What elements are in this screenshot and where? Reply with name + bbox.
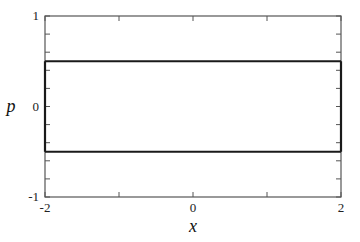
data-series [45, 61, 341, 152]
minor-ticks [45, 16, 341, 197]
x-tick-label: -2 [40, 200, 51, 215]
x-axis-label: x [188, 216, 197, 236]
y-tick-label: -1 [28, 189, 39, 204]
x-tick-label: 2 [338, 200, 345, 215]
x-tick-label: 0 [190, 200, 197, 215]
plot-frame [45, 16, 341, 197]
tick-labels: -101-202 [28, 8, 344, 215]
y-axis-label: p [5, 96, 16, 116]
axes-box [45, 16, 341, 197]
y-tick-label: 0 [33, 99, 40, 114]
y-tick-label: 1 [33, 8, 40, 23]
phase-plot: -101-202 x p [0, 0, 360, 242]
